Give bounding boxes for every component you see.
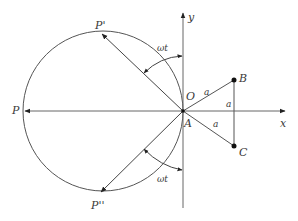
label-lower-angle: ωt — [157, 175, 168, 184]
label-segment-bc: a — [226, 100, 231, 109]
point-c — [232, 144, 237, 149]
label-o: O — [186, 91, 195, 102]
label-segment-ob: a — [204, 88, 209, 97]
line-to-p-double-prime — [101, 111, 183, 192]
point-b — [232, 78, 237, 83]
circle-rotation-diagram: P' P P'' O A B C x y a a a ωt ωt — [0, 0, 298, 221]
label-y-axis: y — [188, 12, 194, 23]
line-to-p-prime — [102, 34, 183, 111]
label-segment-ac: a — [213, 120, 218, 129]
label-b: B — [239, 73, 247, 84]
label-upper-angle: ωt — [157, 44, 168, 53]
label-p-double-prime: P'' — [91, 200, 104, 211]
lower-angle-arc — [144, 149, 182, 170]
label-c: C — [239, 147, 247, 158]
diagram-canvas — [0, 0, 298, 221]
label-p: P — [12, 105, 19, 116]
label-x-axis: x — [280, 118, 286, 129]
label-a-point: A — [184, 118, 192, 129]
point-origin — [181, 109, 185, 113]
label-p-prime: P' — [95, 20, 105, 31]
